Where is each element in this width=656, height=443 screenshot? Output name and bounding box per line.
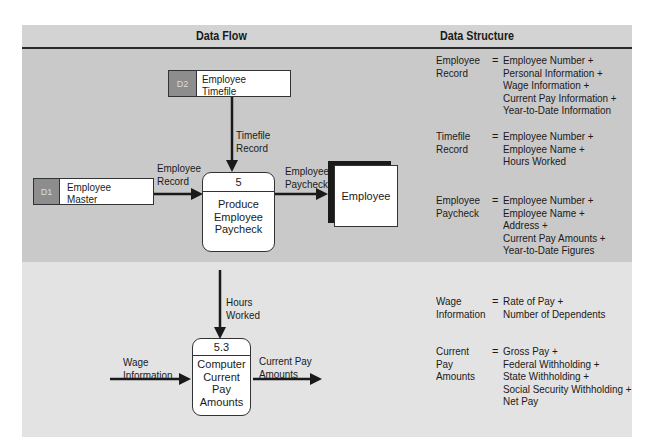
data-store-d1: D1 Employee Master bbox=[33, 178, 154, 205]
flow-label-timefile-record: Timefile Record bbox=[236, 129, 270, 154]
process-5-3: 5.3 Computer Current Pay Amounts bbox=[192, 338, 251, 416]
store-id-d2: D2 bbox=[169, 71, 197, 96]
flow-label-wage-information: Wage Information bbox=[123, 356, 173, 381]
store-name-d1: Employee Master bbox=[67, 181, 111, 205]
flow-label-hours-worked: Hours Worked bbox=[226, 296, 260, 321]
diagram-panel: Data Flow Data Structure D2 Employee Tim… bbox=[22, 25, 632, 437]
process-5-3-id: 5.3 bbox=[193, 339, 250, 356]
arrow-hours-worked bbox=[213, 270, 227, 340]
flow-label-current-pay-amounts: Current Pay Amounts bbox=[259, 355, 312, 380]
data-structure-heading: Data Structure bbox=[440, 29, 514, 43]
entity-employee: Employee bbox=[334, 165, 398, 227]
arrow-employee-record bbox=[154, 187, 204, 201]
flow-label-employee-record: Employee Record bbox=[157, 162, 201, 187]
process-5: 5 Produce Employee Paycheck bbox=[202, 172, 275, 252]
flow-label-employee-paycheck: Employee Paycheck bbox=[285, 165, 329, 190]
data-store-d2: D2 Employee Timefile bbox=[168, 70, 291, 97]
store-id-d1: D1 bbox=[34, 179, 60, 204]
store-name-d2: Employee Timefile bbox=[202, 73, 246, 97]
data-flow-heading: Data Flow bbox=[196, 29, 247, 43]
header-bar: Data Flow Data Structure bbox=[22, 25, 632, 49]
process-5-name: Produce Employee Paycheck bbox=[203, 198, 274, 236]
process-5-3-name: Computer Current Pay Amounts bbox=[193, 358, 250, 408]
process-5-id: 5 bbox=[203, 173, 274, 192]
